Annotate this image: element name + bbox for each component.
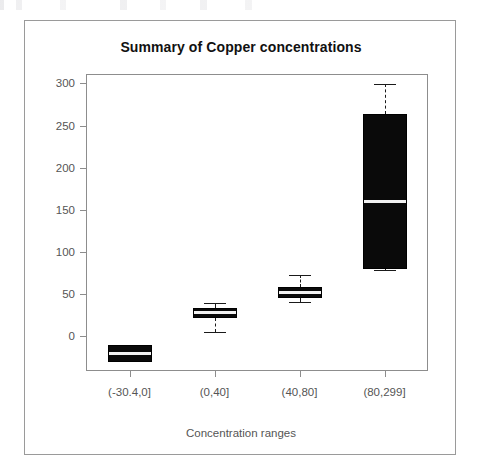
box-iqr: [363, 114, 407, 269]
boxplot-1: [108, 75, 152, 370]
whisker-cap-upper: [289, 275, 311, 276]
y-axis-tick: [80, 336, 87, 337]
y-axis-tick-label: 150: [56, 204, 75, 216]
x-axis-title: Concentration ranges: [25, 427, 457, 439]
y-axis-tick: [80, 126, 87, 127]
y-axis-tick-label: 200: [56, 162, 75, 174]
boxplot-3: [278, 75, 322, 370]
y-axis-tick-label: 0: [69, 330, 75, 342]
x-axis-tick-label: (-30.4,0]: [108, 386, 151, 398]
y-axis-tick: [80, 83, 87, 84]
y-axis-tick-label: 300: [56, 77, 75, 89]
whisker-cap-lower: [204, 332, 226, 333]
x-axis-tick: [130, 370, 131, 377]
x-axis-tick-label: (40,80]: [282, 386, 318, 398]
y-axis-tick-label: 250: [56, 120, 75, 132]
boxplot-data-layer: 050100150200250300(-30.4,0](0,40](40,80]…: [87, 75, 427, 370]
whisker-cap-upper: [204, 303, 226, 304]
y-axis-tick-label: 100: [56, 246, 75, 258]
x-axis-tick-label: (0,40]: [200, 386, 229, 398]
boxplot-4: [363, 75, 407, 370]
whisker-upper: [385, 84, 386, 114]
y-axis-tick-label: 50: [62, 288, 75, 300]
y-axis-tick: [80, 210, 87, 211]
whisker-cap-lower: [289, 302, 311, 303]
x-axis-tick: [300, 370, 301, 377]
median-line: [194, 311, 236, 314]
y-axis-tick: [80, 252, 87, 253]
x-axis-tick: [215, 370, 216, 377]
median-line: [109, 352, 151, 355]
x-axis-tick-label: (80,299]: [363, 386, 405, 398]
y-axis-tick: [80, 168, 87, 169]
whisker-cap-upper: [374, 84, 396, 85]
whisker-cap-lower: [374, 270, 396, 271]
whisker-lower: [215, 318, 216, 332]
boxplot-2: [193, 75, 237, 370]
whisker-upper: [300, 275, 301, 288]
chart-title: Summary of Copper concentrations: [25, 39, 457, 55]
figure-frame: Summary of Copper concentrations 0501001…: [24, 20, 456, 455]
median-line: [364, 200, 406, 203]
x-axis-tick: [385, 370, 386, 377]
median-line: [279, 291, 321, 294]
y-axis-tick: [80, 294, 87, 295]
plot-area: 050100150200250300(-30.4,0](0,40](40,80]…: [86, 74, 428, 371]
scan-artifact: [0, 0, 478, 10]
